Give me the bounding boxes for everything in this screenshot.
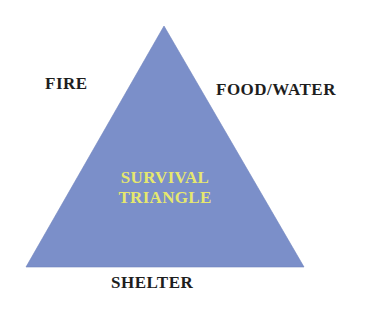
diagram-title: SURVIVAL TRIANGLE (100, 168, 230, 208)
label-fire: FIRE (45, 74, 88, 94)
label-food-water: FOOD/WATER (216, 80, 336, 100)
survival-triangle-diagram: FIRE FOOD/WATER SHELTER SURVIVAL TRIANGL… (0, 0, 385, 310)
label-shelter: SHELTER (111, 273, 193, 293)
triangle-shape (0, 0, 385, 310)
title-line-2: TRIANGLE (100, 188, 230, 208)
title-line-1: SURVIVAL (100, 168, 230, 188)
